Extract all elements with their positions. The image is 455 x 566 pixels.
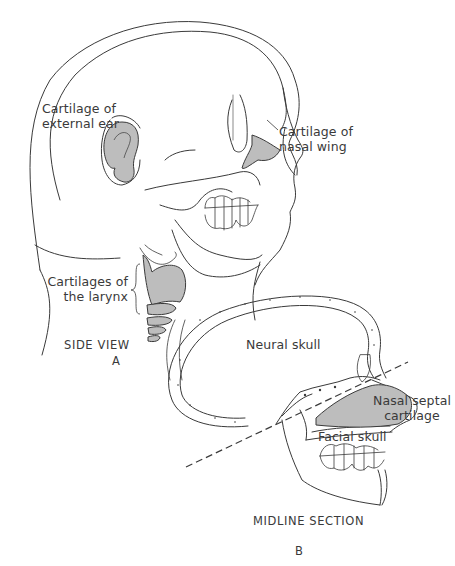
caption-letter-b: B [295, 544, 304, 559]
label-larynx: Cartilages of the larynx [44, 274, 128, 304]
external-ear-cartilage [104, 122, 138, 182]
larynx-cartilages [143, 255, 186, 342]
label-nasal-wing: Cartilage of nasal wing [279, 124, 353, 154]
nasal-wing-cartilage [242, 135, 280, 168]
anatomy-figure: Cartilage of external ear Cartilage of n… [0, 0, 455, 566]
label-neural-skull: Neural skull [246, 337, 321, 352]
label-nasal-septal-cartilage: Nasal septal cartilage [370, 393, 454, 423]
caption-midline-section: MIDLINE SECTION [253, 514, 364, 529]
caption-side-view: SIDE VIEW [64, 338, 130, 353]
label-facial-skull: Facial skull [318, 429, 387, 444]
caption-letter-a: A [112, 354, 120, 369]
label-external-ear: Cartilage of external ear [42, 101, 119, 131]
